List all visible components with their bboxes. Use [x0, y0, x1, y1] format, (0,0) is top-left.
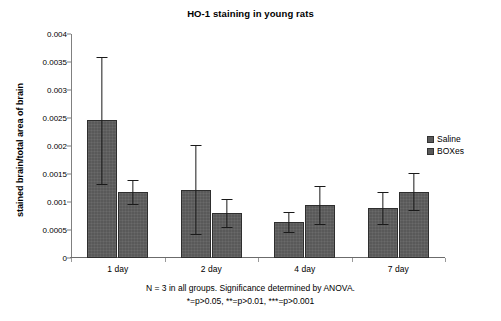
error-bar-cap-upper [284, 212, 295, 213]
error-bar-cap-upper [221, 199, 232, 200]
chart-figure: HO-1 staining in young rats stained brai… [0, 0, 501, 321]
legend-label-saline: Saline [437, 133, 461, 145]
y-tick-label: 0.0025 [23, 114, 67, 123]
error-bar-cap-upper [315, 186, 326, 187]
error-bar-stem [102, 57, 103, 184]
error-bar-stem [289, 212, 290, 232]
error-bar-cap-upper [377, 192, 388, 193]
error-bar-stem [320, 186, 321, 224]
error-bar-cap-upper [408, 173, 419, 174]
footnote-line-2: *=p>0.05, **=p>0.01, ***=p>0.001 [0, 296, 501, 306]
y-axis-line [71, 34, 72, 258]
legend-swatch-icon [427, 148, 434, 155]
legend-label-boxes: BOXes [437, 145, 464, 157]
error-bar-cap-upper [97, 57, 108, 58]
x-tick-mark [165, 258, 166, 262]
y-tick-label: 0.002 [23, 142, 67, 151]
chart-title: HO-1 staining in young rats [0, 8, 501, 19]
x-tick-mark [445, 258, 446, 262]
y-tick-label: 0.004 [23, 30, 67, 39]
y-tick-label: 0.0035 [23, 58, 67, 67]
error-bar-cap-lower [377, 224, 388, 225]
x-category-label: 2 day [201, 264, 222, 274]
x-tick-mark [352, 258, 353, 262]
legend-item-saline: Saline [427, 133, 464, 145]
y-tick-mark [67, 174, 71, 175]
legend-swatch-icon [427, 136, 434, 143]
y-tick-mark [67, 230, 71, 231]
x-category-label: 4 day [294, 264, 315, 274]
error-bar-cap-lower [190, 234, 201, 235]
legend-item-boxes: BOXes [427, 145, 464, 157]
footnote-line-1: N = 3 in all groups. Significance determ… [0, 283, 501, 293]
y-tick-label: 0.0015 [23, 170, 67, 179]
error-bar-stem [413, 173, 414, 210]
y-tick-mark [67, 62, 71, 63]
y-tick-mark [67, 90, 71, 91]
error-bar-cap-upper [190, 145, 201, 146]
x-category-label: 7 day [388, 264, 409, 274]
x-tick-mark [258, 258, 259, 262]
x-category-label: 1 day [107, 264, 128, 274]
error-bar-stem [195, 145, 196, 233]
chart-legend: Saline BOXes [427, 133, 464, 157]
x-tick-mark [71, 258, 72, 262]
y-tick-label: 0.003 [23, 86, 67, 95]
y-tick-mark [67, 202, 71, 203]
y-tick-label: 0.001 [23, 198, 67, 207]
error-bar-cap-lower [128, 204, 139, 205]
y-tick-label: 0.0005 [23, 226, 67, 235]
error-bar-cap-lower [315, 224, 326, 225]
error-bar-cap-lower [221, 227, 232, 228]
y-tick-mark [67, 118, 71, 119]
error-bar-cap-upper [128, 180, 139, 181]
error-bar-cap-lower [284, 232, 295, 233]
error-bar-stem [382, 192, 383, 223]
y-tick-mark [67, 34, 71, 35]
error-bar-cap-lower [408, 210, 419, 211]
y-tick-mark [67, 146, 71, 147]
error-bar-cap-lower [97, 184, 108, 185]
plot-area: 00.00050.0010.00150.0020.00250.0030.0035… [71, 34, 445, 258]
y-tick-label: 0 [23, 254, 67, 263]
error-bar-stem [133, 180, 134, 204]
error-bar-stem [226, 199, 227, 227]
